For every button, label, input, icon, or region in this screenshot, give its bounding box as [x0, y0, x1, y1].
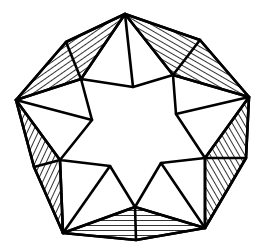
star-polygon-diagram: Heptagonal star tiling with hatched kite… [0, 0, 266, 250]
inner-star-outline [60, 75, 205, 207]
hatched-region-top-left [16, 14, 125, 100]
diagram-canvas [0, 0, 266, 250]
spoke-edge [125, 14, 133, 87]
spoke-edge [135, 207, 136, 240]
